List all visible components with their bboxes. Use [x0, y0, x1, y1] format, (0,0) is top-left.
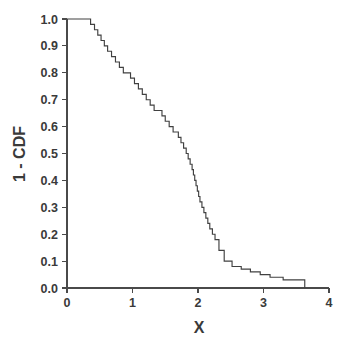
- y-tick-label: 0.3: [41, 201, 58, 215]
- y-tick-label: 0.8: [41, 66, 58, 80]
- y-tick-label: 0.5: [41, 147, 58, 161]
- y-axis-title: 1 - CDF: [11, 126, 28, 182]
- x-axis-tick-labels: 01234: [64, 296, 333, 310]
- y-axis-tick-labels: 0.00.10.20.30.40.50.60.70.80.91.0: [41, 13, 58, 296]
- x-axis-ticks: [67, 288, 329, 293]
- y-tick-label: 0.0: [41, 282, 58, 296]
- y-tick-label: 1.0: [41, 13, 58, 27]
- y-tick-label: 0.6: [41, 120, 58, 134]
- y-tick-label: 0.9: [41, 39, 58, 53]
- axes-group: [67, 19, 329, 288]
- x-axis-title: X: [194, 319, 205, 336]
- data-series-group: [67, 19, 305, 288]
- y-tick-label: 0.1: [41, 255, 58, 269]
- step-plot-svg: 0.00.10.20.30.40.50.60.70.80.91.0 01234 …: [0, 0, 350, 342]
- series-line-1-cdf: [67, 19, 305, 288]
- x-tick-label: 3: [260, 296, 267, 310]
- x-tick-label: 0: [64, 296, 71, 310]
- y-tick-label: 0.7: [41, 93, 58, 107]
- y-tick-label: 0.2: [41, 228, 58, 242]
- y-tick-label: 0.4: [41, 174, 58, 188]
- chart-figure: 0.00.10.20.30.40.50.60.70.80.91.0 01234 …: [0, 0, 350, 342]
- y-axis-ticks: [62, 19, 67, 288]
- x-tick-label: 4: [326, 296, 333, 310]
- x-tick-label: 1: [129, 296, 136, 310]
- x-tick-label: 2: [195, 296, 202, 310]
